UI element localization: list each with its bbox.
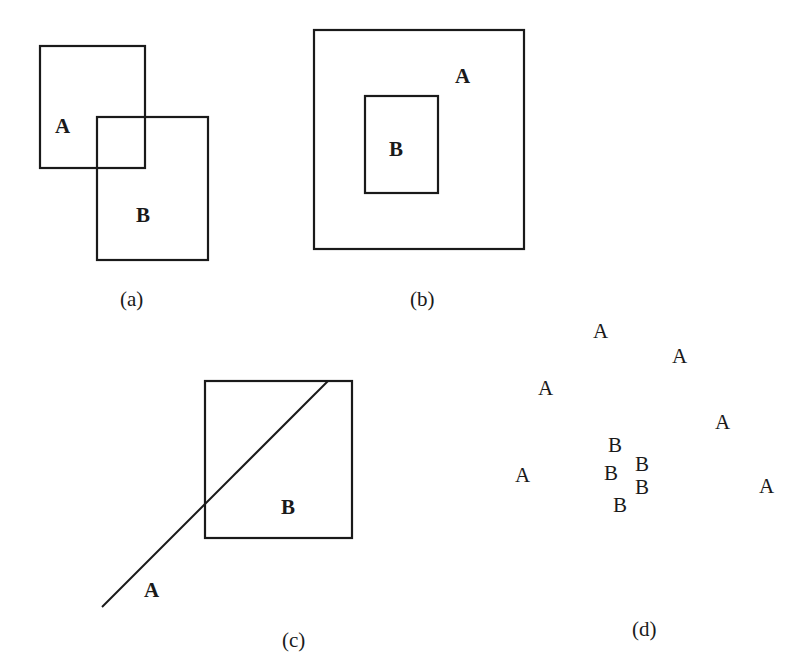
caption-c: (c) — [282, 628, 305, 652]
rect-a-outer — [314, 30, 524, 249]
panel-b: A B (b) — [314, 30, 524, 311]
panel-c: A B (c) — [102, 381, 352, 652]
label-a: A — [144, 578, 160, 602]
point-a: A — [759, 474, 775, 498]
rect-b — [97, 117, 208, 260]
label-b: B — [136, 203, 150, 227]
point-a: A — [593, 319, 609, 343]
caption-d: (d) — [632, 617, 657, 641]
point-b: B — [635, 452, 649, 476]
rect-b — [205, 381, 352, 538]
caption-b: (b) — [410, 287, 435, 311]
figure-canvas: A B (a) A B (b) A B (c) A A A A A A B B … — [0, 0, 808, 672]
label-a: A — [55, 114, 71, 138]
point-a: A — [515, 463, 531, 487]
point-b: B — [635, 475, 649, 499]
point-b: B — [604, 461, 618, 485]
point-a: A — [715, 410, 731, 434]
panel-d: A A A A A A B B B B B (d) — [515, 319, 775, 641]
panel-a: A B (a) — [40, 46, 208, 311]
label-b: B — [281, 495, 295, 519]
point-a: A — [538, 376, 554, 400]
caption-a: (a) — [120, 287, 143, 311]
point-b: B — [608, 433, 622, 457]
label-b: B — [389, 137, 403, 161]
label-a: A — [455, 64, 471, 88]
rect-a — [40, 46, 145, 168]
point-a: A — [672, 344, 688, 368]
point-b: B — [613, 493, 627, 517]
line-a — [102, 381, 328, 607]
